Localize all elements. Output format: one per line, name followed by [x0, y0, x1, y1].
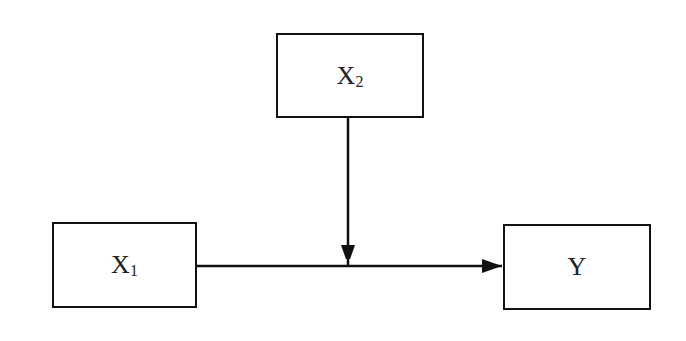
node-x2: X2 [276, 33, 424, 118]
node-x2-label: X2 [337, 61, 364, 91]
node-x1: X1 [52, 222, 197, 308]
node-y: Y [503, 224, 651, 310]
node-y-label: Y [568, 252, 587, 282]
node-x1-label: X1 [111, 250, 138, 280]
